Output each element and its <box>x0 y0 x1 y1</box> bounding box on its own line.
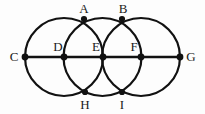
point-marker-E <box>100 54 107 61</box>
point-marker-C <box>22 54 29 61</box>
geometry-figure: A B C D E F G H I <box>0 0 205 114</box>
point-marker-G <box>177 54 184 61</box>
point-label-H: H <box>80 98 89 111</box>
point-label-D: D <box>53 40 62 53</box>
figure-canvas <box>0 0 205 114</box>
point-marker-I <box>119 89 125 95</box>
point-marker-D <box>61 54 68 61</box>
point-marker-H <box>82 89 88 95</box>
point-label-F: F <box>130 40 137 53</box>
point-label-C: C <box>10 50 19 63</box>
point-label-I: I <box>120 98 124 111</box>
point-marker-F <box>138 54 145 61</box>
point-marker-B <box>119 16 125 22</box>
point-label-E: E <box>92 40 100 53</box>
point-label-B: B <box>119 2 128 15</box>
point-label-G: G <box>186 50 195 63</box>
point-label-A: A <box>79 2 88 15</box>
point-marker-A <box>81 16 87 22</box>
